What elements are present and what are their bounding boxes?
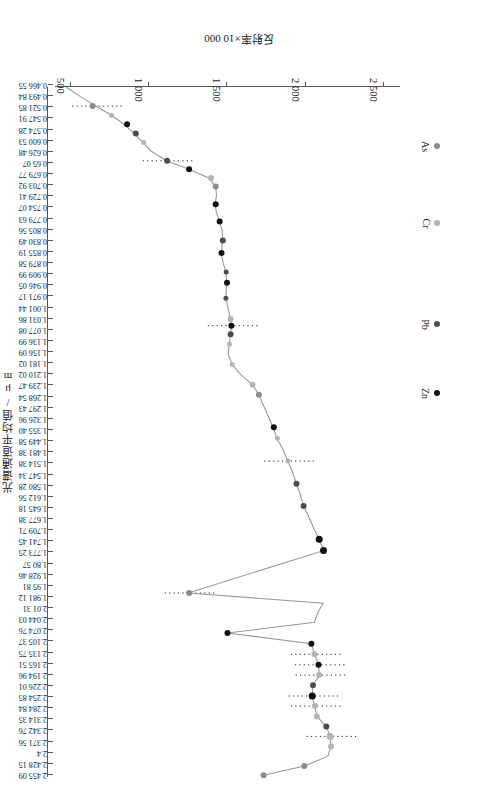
- y-tick: [48, 284, 53, 285]
- x-axis-line: [55, 86, 400, 87]
- y-tick: [48, 507, 53, 508]
- y-tick: [48, 496, 53, 497]
- y-tick-label: 2.342 76: [19, 726, 47, 734]
- y-tick: [48, 596, 53, 597]
- y-tick-label: 0.971 17: [19, 292, 47, 300]
- marker-zn: [217, 219, 223, 225]
- x-tick-label: 1 500: [212, 78, 223, 102]
- element-markers: [90, 103, 334, 778]
- legend-item-cr[interactable]: Cr: [421, 218, 440, 230]
- y-tick: [48, 340, 53, 341]
- y-tick: [48, 540, 53, 541]
- marker-as: [261, 772, 267, 778]
- legend-item-pb[interactable]: Pb: [420, 319, 440, 331]
- x-tick: [70, 82, 71, 87]
- marker-pb: [223, 296, 228, 301]
- y-tick-label: 1.156 09: [19, 348, 47, 356]
- y-tick: [48, 585, 53, 586]
- y-tick-label: 1.514 38: [19, 459, 47, 467]
- y-tick-label: 0.855 19: [19, 248, 47, 256]
- marker-zn: [224, 280, 230, 286]
- y-tick: [48, 162, 53, 163]
- x-tick: [383, 82, 384, 87]
- y-tick-label: 0.626 48: [19, 148, 47, 156]
- y-tick: [48, 618, 53, 619]
- y-tick: [48, 462, 53, 463]
- marker-pb: [133, 130, 139, 136]
- y-tick-label: 1.449 58: [19, 437, 47, 445]
- y-tick-label: 0.754 07: [19, 203, 47, 211]
- y-tick-label: 1.326 96: [19, 415, 47, 423]
- y-tick-label: 2.4: [37, 749, 47, 757]
- y-tick-label: 0.493 84: [19, 92, 47, 100]
- marker-as: [186, 590, 192, 596]
- y-tick-label: 0.805 56: [19, 226, 47, 234]
- y-tick: [48, 518, 53, 519]
- y-tick: [48, 106, 53, 107]
- marker-pb: [323, 724, 329, 730]
- marker-cr: [227, 342, 232, 347]
- y-tick: [48, 652, 53, 653]
- x-axis-title: 反射率×10 000: [139, 32, 339, 48]
- y-tick: [48, 95, 53, 96]
- y-tick: [48, 384, 53, 385]
- y-tick-label: 1.077 08: [19, 326, 47, 334]
- y-tick: [48, 273, 53, 274]
- legend-swatch-zn-icon: [434, 390, 440, 396]
- y-tick-label: 0.466 55: [19, 81, 47, 89]
- y-tick: [48, 729, 53, 730]
- y-tick-label: 0.703 92: [19, 181, 47, 189]
- legend-swatch-as-icon: [434, 143, 440, 149]
- y-tick-label: 1.709 71: [19, 526, 47, 534]
- y-tick: [48, 663, 53, 664]
- y-tick-label: 2.371 56: [19, 738, 47, 746]
- y-tick-label: 1.95 81: [23, 582, 47, 590]
- y-tick-label: 1.580 28: [19, 482, 47, 490]
- legend-label: As: [420, 141, 431, 152]
- marker-cr: [250, 382, 256, 388]
- marker-as: [213, 184, 219, 190]
- marker-cr: [275, 436, 280, 441]
- legend-item-zn[interactable]: Zn: [420, 388, 440, 400]
- y-tick: [48, 718, 53, 719]
- y-tick-label: 0.830 49: [19, 237, 47, 245]
- y-tick: [48, 373, 53, 374]
- y-tick-label: 2.105 37: [19, 637, 47, 645]
- y-tick: [48, 318, 53, 319]
- y-tick: [48, 529, 53, 530]
- y-tick-label: 2.314 35: [19, 715, 47, 723]
- marker-cr: [228, 316, 234, 322]
- marker-zn: [316, 536, 323, 543]
- marker-pb: [301, 503, 307, 509]
- x-tick-label: 2 000: [290, 78, 301, 102]
- y-tick: [48, 474, 53, 475]
- marker-zn: [228, 323, 234, 329]
- marker-pb: [224, 270, 229, 275]
- y-tick: [48, 551, 53, 552]
- chart-plot-area: [0, 0, 478, 793]
- y-tick-label: 1.481 38: [19, 448, 47, 456]
- y-tick: [48, 84, 53, 85]
- legend-item-as[interactable]: As: [420, 141, 440, 153]
- marker-zn: [124, 121, 130, 127]
- y-tick-label: 1.181 02: [19, 359, 47, 367]
- x-tick-label: 2 500: [368, 78, 379, 102]
- legend-swatch-cr-icon: [434, 220, 440, 226]
- y-tick: [48, 251, 53, 252]
- marker-cr: [327, 733, 334, 740]
- marker-cr: [312, 651, 318, 657]
- y-tick-label: 1.80 57: [23, 560, 47, 568]
- y-tick: [48, 707, 53, 708]
- marker-zn: [225, 630, 231, 636]
- y-tick-label: 1.981 12: [19, 593, 47, 601]
- marker-cr: [230, 362, 235, 367]
- marker-zn: [219, 250, 225, 256]
- y-tick-label: 2.254 85: [19, 693, 47, 701]
- y-tick: [48, 752, 53, 753]
- marker-pb: [164, 158, 170, 164]
- y-tick-label: 1.136 99: [19, 337, 47, 345]
- marker-zn: [271, 424, 277, 430]
- y-tick-label: 1.677 38: [19, 515, 47, 523]
- y-tick: [48, 218, 53, 219]
- y-tick: [48, 117, 53, 118]
